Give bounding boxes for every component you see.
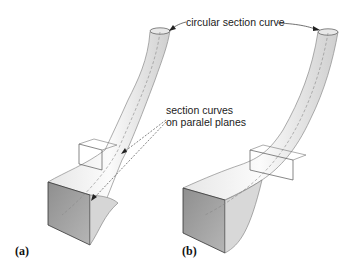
- circular-section-label: circular section curve: [186, 16, 285, 28]
- section-curves-label-line1: section curves: [166, 104, 233, 116]
- diagram-canvas: [0, 0, 359, 269]
- panel-a-label: (a): [15, 244, 29, 259]
- panel-a-shape: [48, 28, 170, 245]
- section-curves-label-line2: on paralel planes: [166, 116, 246, 128]
- panel-b-label: (b): [182, 244, 197, 259]
- panel-b-shape: [183, 29, 338, 253]
